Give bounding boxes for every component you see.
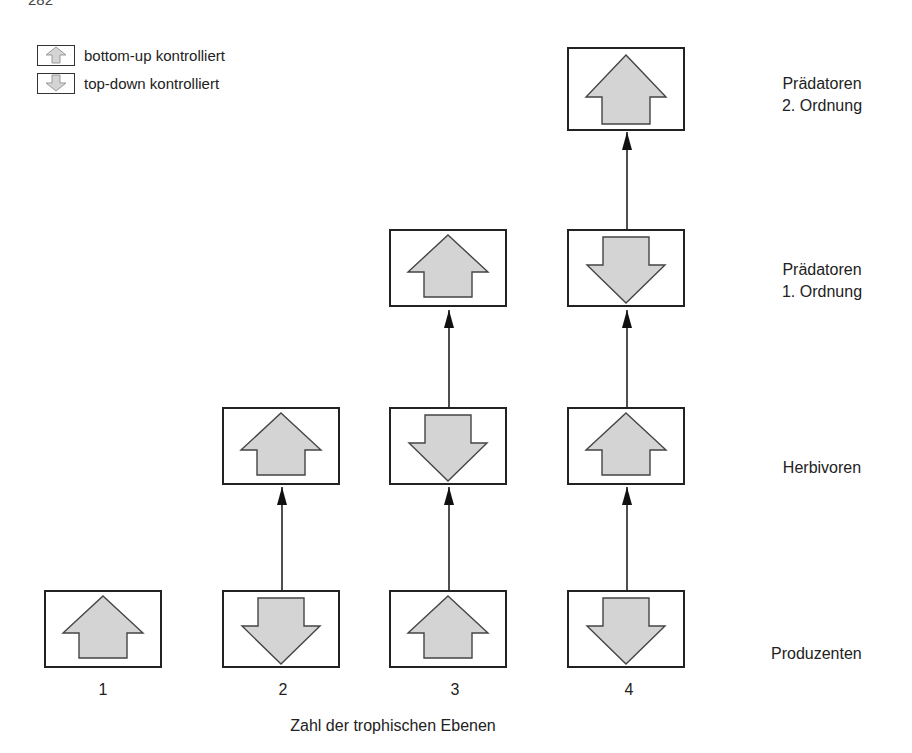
arrow-down-icon [224,592,338,666]
level-label-herbivoren: Herbivoren [762,457,882,479]
box-col4-herbivoren [567,407,685,485]
arrow-up-icon [391,231,505,305]
arrow-up-icon [224,409,338,483]
arrow-up-icon [569,409,683,483]
arrow-down-icon [569,592,683,666]
level-label-praedatoren-2: Prädatoren 2. Ordnung [762,73,882,117]
x-axis-label: Zahl der trophischen Ebenen [0,717,912,735]
arrow-up-icon [391,592,505,666]
box-col1-produzenten [44,590,162,668]
box-col4-praedatoren-1 [567,229,685,307]
x-axis-label-text: Zahl der trophischen Ebenen [290,717,495,734]
x-tick-2: 2 [273,681,293,699]
x-tick-1: 1 [93,681,113,699]
box-col2-produzenten [222,590,340,668]
arrow-down-icon [569,231,683,305]
x-tick-4: 4 [619,681,639,699]
level-label-praedatoren-1: Prädatoren 1. Ordnung [762,259,882,303]
box-col4-produzenten [567,590,685,668]
level-label-produzenten: Produzenten [762,643,892,665]
x-tick-3: 3 [445,681,465,699]
arrow-up-icon [569,49,683,129]
box-col3-praedatoren-1 [389,229,507,307]
box-col2-herbivoren [222,407,340,485]
box-col4-praedatoren-2 [567,47,685,131]
arrow-down-icon [391,409,505,483]
arrow-up-icon [46,592,160,666]
box-col3-herbivoren [389,407,507,485]
box-col3-produzenten [389,590,507,668]
